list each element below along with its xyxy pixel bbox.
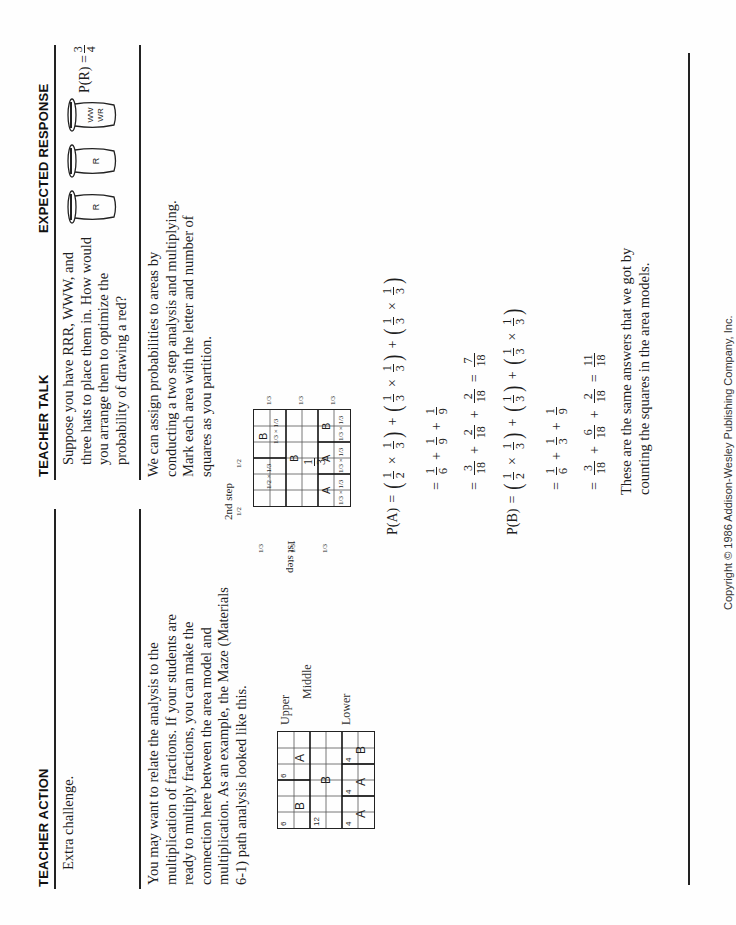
row2-talk-intro: We can assign probabilities to areas by …	[145, 187, 215, 477]
area-upper-right-letter: B	[257, 433, 269, 440]
header-expected-response: EXPECTED RESPONSE	[36, 84, 51, 233]
area-lower-right-product: 1/3 × 1/3	[338, 416, 345, 441]
equation-pa-line3: = 318+ 218+ 218= 718	[462, 351, 487, 495]
maze-lower-3-count: 4	[344, 758, 353, 762]
area-right-fraction-1: 1/3	[266, 396, 273, 405]
area-top-fraction-1: 1/2	[236, 507, 243, 516]
area-side-fraction-1: 1/3	[258, 544, 265, 553]
maze-upper-right-letter: A	[293, 754, 307, 762]
rule-row-divider-talk	[139, 45, 141, 480]
area-side-fraction-3: 1/3	[322, 544, 329, 553]
row1-talk-text: Suppose you have RRR, WWW, and three hat…	[60, 230, 130, 465]
maze-band-upper: Upper	[278, 695, 293, 725]
area-middle-letter: B	[288, 455, 300, 462]
result-lhs: P(R) =	[77, 55, 93, 93]
maze-middle-count: 12	[312, 817, 321, 826]
rotated-document-page: TEACHER ACTION TEACHER TALK EXPECTED RES…	[0, 0, 736, 925]
svg-text:WR: WR	[96, 108, 105, 122]
hat-icon: R	[66, 189, 118, 225]
maze-lower-1-letter: A	[354, 810, 368, 818]
svg-text:WW: WW	[86, 107, 95, 123]
area-upper-left-product: 1/2 × 1/3	[266, 464, 273, 489]
area-lower-left-letter: A	[320, 487, 332, 494]
hat-icon: R	[66, 143, 118, 179]
copyright-notice: Copyright © 1986 Addison-Wesley Publishi…	[722, 316, 734, 610]
equation-pb-line1: P(B)= (12×13) + (13) + (13×13)	[500, 307, 526, 535]
area-top-fraction-2: 1/2	[236, 459, 243, 468]
area-lower-right-letter: B	[320, 423, 332, 430]
maze-middle-letter: B	[319, 776, 333, 784]
svg-text:R: R	[91, 157, 101, 164]
rule-under-action-header	[54, 509, 56, 889]
row2-conclusion: These are the same answers that we got b…	[618, 240, 653, 495]
header-teacher-action: TEACHER ACTION	[36, 768, 51, 887]
row2-action-text: You may want to relate the analysis to t…	[145, 585, 250, 885]
maze-lower-2-count: 4	[344, 790, 353, 794]
area-lower-mid-letter: A	[320, 455, 332, 462]
equation-pa-line1: P(A)= (12×13) + (13×13) + (13×13)	[380, 276, 406, 535]
maze-area-model: 6 B 6 A 12 B 4 A 4 A 4 B	[277, 731, 375, 829]
row1-action-text: Extra challenge.	[60, 570, 78, 870]
area-side-fraction-2: 1/3	[290, 544, 297, 553]
area-lower-left-product: 1/3 × 1/3	[338, 480, 345, 505]
hat-icon: WW WR	[66, 97, 118, 133]
area-right-fraction-3: 1/3	[330, 396, 337, 405]
result-fraction: 3 4	[72, 45, 97, 53]
equation-pa-line2: = 16+ 19+ 19	[424, 405, 449, 495]
area-lower-mid-product: 1/3 × 1/3	[338, 448, 345, 473]
area-model-top-label: 2nd step	[222, 483, 234, 520]
maze-upper-right-count: 6	[279, 774, 288, 778]
rule-under-talk-header	[54, 45, 56, 480]
maze-lower-3-letter: B	[354, 746, 368, 754]
area-right-fraction-2: 1/3	[298, 396, 305, 405]
rule-bottom	[688, 53, 690, 885]
hats-group: R R WW WR	[66, 97, 118, 225]
equation-pb-line2: = 16+ 13+ 19	[544, 405, 569, 495]
maze-lower-1-count: 4	[344, 822, 353, 826]
svg-text:R: R	[91, 203, 101, 210]
maze-band-middle: Middle	[300, 664, 315, 699]
equation-pb-line3: = 318+ 618+ 218= 1118	[582, 351, 607, 495]
two-step-area-model: 1/2 × 1/3 B 1/3 × 1/3 B 1 3 A 1/3 × 1/3 …	[253, 409, 351, 507]
maze-lower-2-letter: A	[354, 778, 368, 786]
maze-upper-left-letter: B	[293, 802, 307, 810]
maze-upper-left-count: 6	[279, 822, 288, 826]
rule-row-divider-action	[139, 509, 141, 889]
area-upper-right-product: 1/3 × 1/3	[273, 419, 280, 444]
probability-red-result: P(R) = 3 4	[72, 43, 97, 93]
maze-band-lower: Lower	[339, 694, 354, 725]
header-teacher-talk: TEACHER TALK	[36, 374, 51, 477]
